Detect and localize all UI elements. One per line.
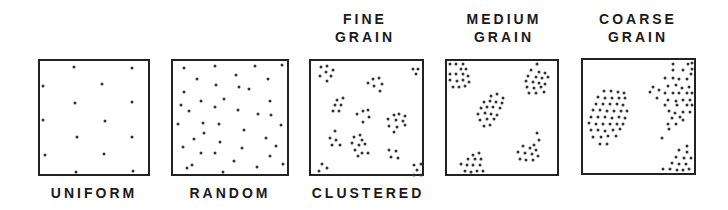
point-dot xyxy=(214,106,217,109)
point-dot xyxy=(416,169,419,172)
point-dot xyxy=(338,110,341,113)
point-dot xyxy=(368,116,371,119)
point-dot xyxy=(691,62,694,65)
point-dot xyxy=(42,119,45,122)
point-dot xyxy=(682,169,685,172)
point-dot xyxy=(248,88,251,91)
point-dot xyxy=(131,136,134,139)
point-dot xyxy=(592,136,595,139)
point-dot xyxy=(533,87,536,90)
point-dot xyxy=(686,78,689,81)
point-dot xyxy=(182,146,185,149)
point-dot xyxy=(460,68,463,71)
point-dot xyxy=(675,156,678,159)
point-dot xyxy=(330,75,333,78)
point-dot xyxy=(688,168,691,171)
point-dot xyxy=(502,97,505,100)
point-dot xyxy=(689,99,692,102)
point-dot xyxy=(672,69,675,72)
point-dot xyxy=(664,77,667,80)
point-dot xyxy=(599,143,602,146)
point-dot xyxy=(499,107,502,110)
point-dot xyxy=(477,113,480,116)
point-dot xyxy=(342,97,345,100)
point-dot xyxy=(361,139,364,142)
point-dot xyxy=(257,113,260,116)
point-dot xyxy=(218,123,221,126)
point-dot xyxy=(669,168,672,171)
point-dot xyxy=(517,151,520,154)
point-dot xyxy=(490,95,493,98)
point-dot xyxy=(616,103,619,106)
point-dot xyxy=(675,100,678,103)
point-dot xyxy=(622,104,625,107)
point-dot xyxy=(617,91,620,94)
point-dot xyxy=(668,128,671,131)
point-dot xyxy=(351,142,354,145)
point-dot xyxy=(538,139,541,142)
point-dot xyxy=(480,158,483,161)
point-dot xyxy=(395,150,398,153)
point-dot xyxy=(529,147,532,150)
point-dot xyxy=(690,73,693,76)
point-dot xyxy=(462,63,465,66)
point-dot xyxy=(611,97,614,100)
point-dot xyxy=(466,164,469,167)
point-dot xyxy=(686,151,689,154)
point-dot xyxy=(367,82,370,85)
point-dot xyxy=(269,100,272,103)
point-dot xyxy=(626,110,629,113)
point-dot xyxy=(532,159,535,162)
point-dot xyxy=(667,123,670,126)
point-dot xyxy=(241,147,244,150)
point-dot xyxy=(353,136,356,139)
point-dot xyxy=(243,129,246,132)
point-dot xyxy=(541,77,544,80)
point-dot xyxy=(687,63,690,66)
point-dot xyxy=(103,153,106,156)
point-dot xyxy=(490,113,493,116)
point-dot xyxy=(372,78,375,81)
point-dot xyxy=(483,101,486,104)
point-dot xyxy=(623,92,626,95)
point-dot xyxy=(536,63,539,66)
point-dot xyxy=(398,113,401,116)
point-dot xyxy=(275,145,278,148)
point-dot xyxy=(602,103,605,106)
point-dot xyxy=(215,84,218,87)
point-dot xyxy=(683,157,686,160)
point-dot xyxy=(464,170,467,173)
point-dot xyxy=(489,100,492,103)
point-dot xyxy=(387,118,390,121)
point-dot xyxy=(183,67,186,70)
point-dot xyxy=(420,163,423,166)
point-dot xyxy=(404,115,407,118)
point-dot xyxy=(525,80,528,83)
point-dot xyxy=(597,116,600,119)
point-dot xyxy=(334,130,337,133)
point-dot xyxy=(332,110,335,113)
point-dot xyxy=(671,117,674,120)
point-dot xyxy=(326,167,329,170)
point-dot xyxy=(379,90,382,93)
point-dot xyxy=(590,129,593,132)
point-dot xyxy=(484,112,487,115)
point-dot xyxy=(678,92,681,95)
point-dot xyxy=(607,135,610,138)
point-dot xyxy=(325,71,328,74)
label-fine-line1: FINE xyxy=(315,11,415,28)
point-dot xyxy=(662,168,665,171)
label-coarse-line1: COARSE xyxy=(583,11,693,28)
point-dot xyxy=(364,143,367,146)
panel-uniform xyxy=(38,59,150,176)
point-dot xyxy=(460,163,463,166)
point-dot xyxy=(131,101,134,104)
point-dot xyxy=(203,132,206,135)
point-dot xyxy=(472,154,475,157)
point-dot xyxy=(354,149,357,152)
point-dot xyxy=(675,123,678,126)
point-dot xyxy=(606,143,609,146)
point-dot xyxy=(476,170,479,173)
point-dot xyxy=(610,90,613,93)
point-dot xyxy=(522,145,525,148)
